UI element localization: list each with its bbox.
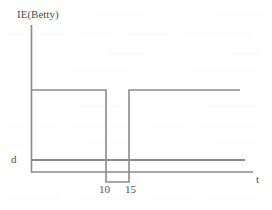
x-axis-label: t [256,174,259,185]
x-tick-label-10: 10 [99,184,110,195]
x-tick-label-15: 15 [125,184,136,195]
figure-canvas: IE(Betty) t d 10 15 [0,0,272,210]
step-plot-graphic [0,0,272,210]
threshold-label-d: d [11,154,17,165]
step-waveform-ie-betty [31,90,240,182]
y-axis-label: IE(Betty) [17,9,59,20]
